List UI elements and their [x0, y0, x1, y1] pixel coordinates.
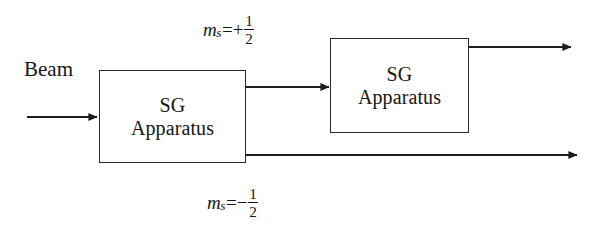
arrows-layer [0, 0, 601, 233]
sg-box-2-line-1: SG [387, 63, 413, 85]
sg-box-1-line-2: Apparatus [131, 117, 214, 139]
spin-down-numerator: 1 [248, 186, 258, 202]
spin-up-label: ms=+ 1 2 [203, 13, 254, 46]
beam-label: Beam [24, 57, 73, 82]
spin-up-variable: m [203, 19, 217, 41]
stern-gerlach-diagram: Beam ms=+ 1 2 ms=− 1 2 SG Apparatus SG A… [0, 0, 601, 233]
spin-down-fraction: 1 2 [248, 186, 258, 219]
spin-down-denominator: 2 [248, 202, 258, 219]
sg-apparatus-box-1: SG Apparatus [99, 70, 246, 163]
spin-down-label: ms=− 1 2 [207, 186, 258, 219]
sg-box-1-line-1: SG [160, 94, 186, 116]
sg-apparatus-box-2: SG Apparatus [330, 38, 469, 133]
spin-up-subscript: s [216, 25, 221, 41]
spin-down-variable: m [207, 192, 221, 214]
sg-box-2-line-2: Apparatus [358, 86, 441, 108]
spin-up-fraction: 1 2 [244, 13, 254, 46]
spin-down-subscript: s [220, 198, 225, 214]
spin-up-denominator: 2 [244, 29, 254, 46]
spin-up-relation: =+ [222, 19, 243, 41]
spin-down-relation: =− [226, 192, 247, 214]
spin-up-numerator: 1 [244, 13, 254, 29]
